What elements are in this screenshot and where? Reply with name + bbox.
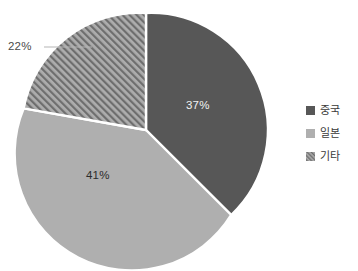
hatched-swatch-icon	[306, 152, 315, 161]
solid-light-swatch-icon	[306, 129, 315, 138]
solid-dark-swatch-icon	[306, 106, 315, 115]
pie-slice-other	[24, 13, 146, 130]
legend-item-china: 중국	[306, 104, 340, 116]
pie-chart-canvas	[0, 0, 358, 271]
legend-label-other: 기타	[320, 150, 340, 162]
legend-item-japan: 일본	[306, 127, 340, 139]
chart-legend: 중국 일본 기타	[306, 104, 340, 162]
legend-label-japan: 일본	[320, 127, 340, 139]
pie-chart-figure: 37% 41% 22% 중국 일본 기타	[0, 0, 358, 271]
legend-label-china: 중국	[320, 104, 340, 116]
legend-item-other: 기타	[306, 150, 340, 162]
